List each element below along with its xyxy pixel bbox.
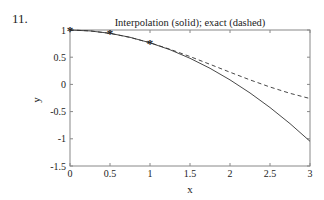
chart-title: Interpolation (solid); exact (dashed) bbox=[115, 17, 266, 29]
y-tick-label: 0 bbox=[61, 79, 66, 90]
data-point-marker: * bbox=[67, 23, 74, 38]
x-tick-label: 0 bbox=[68, 168, 73, 179]
y-tick-label: 0.5 bbox=[54, 52, 67, 63]
y-axis-ticks: 10.50-0.5-1-1.5 bbox=[50, 25, 310, 172]
plot-area bbox=[70, 30, 310, 166]
x-axis-label: x bbox=[187, 183, 193, 195]
y-tick-label: 1 bbox=[61, 25, 66, 36]
x-tick-label: 1 bbox=[148, 168, 153, 179]
interpolation-line bbox=[70, 30, 310, 141]
x-axis-ticks: 00.511.522.53 bbox=[68, 30, 313, 179]
y-axis-label: y bbox=[30, 97, 42, 103]
x-tick-label: 3 bbox=[308, 168, 313, 179]
x-tick-label: 2.5 bbox=[264, 168, 277, 179]
x-tick-label: 2 bbox=[228, 168, 233, 179]
interpolation-chart: Interpolation (solid); exact (dashed) 00… bbox=[0, 0, 324, 200]
data-point-marker: * bbox=[107, 26, 114, 41]
y-tick-label: -0.5 bbox=[50, 106, 66, 117]
data-point-marker: * bbox=[147, 36, 154, 51]
x-tick-label: 1.5 bbox=[184, 168, 197, 179]
data-series: *** bbox=[67, 23, 310, 141]
y-tick-label: -1 bbox=[58, 133, 66, 144]
x-tick-label: 0.5 bbox=[104, 168, 117, 179]
y-tick-label: -1.5 bbox=[50, 161, 66, 172]
